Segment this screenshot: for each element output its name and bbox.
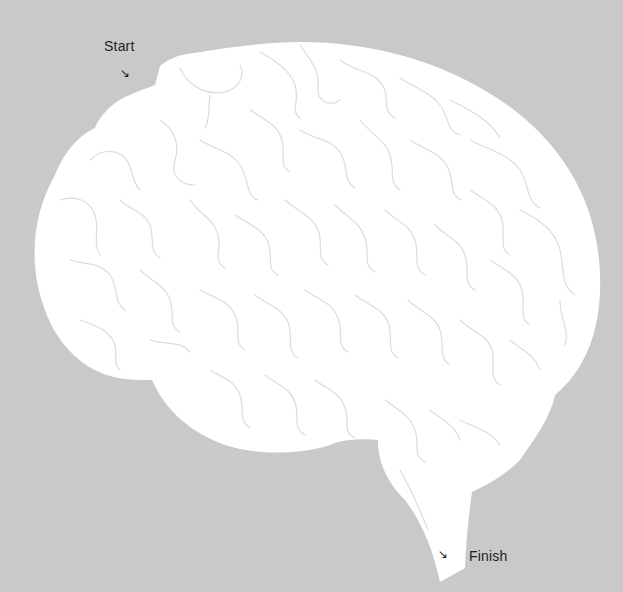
finish-arrow-icon: ↘ xyxy=(438,548,448,560)
brain-maze[interactable] xyxy=(0,0,623,592)
brain-outline xyxy=(35,42,601,582)
finish-label: Finish xyxy=(469,548,508,564)
start-arrow-icon: ↘ xyxy=(120,67,130,79)
start-label: Start xyxy=(104,38,135,54)
